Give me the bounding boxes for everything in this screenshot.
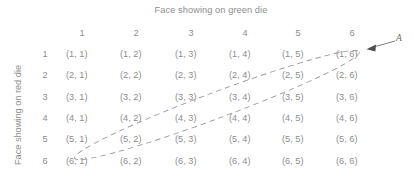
cell-3-2: (3, 2) bbox=[120, 92, 164, 102]
cell-2-4: (2, 4) bbox=[229, 70, 273, 80]
row-header-4: 4 bbox=[38, 113, 52, 123]
cell-2-3: (2, 3) bbox=[175, 70, 219, 80]
cell-5-6: (5, 6) bbox=[336, 134, 380, 144]
column-axis-title: Face showing on green die bbox=[0, 5, 414, 15]
cell-4-4: (4, 4) bbox=[229, 113, 273, 123]
cell-5-2: (5, 2) bbox=[120, 134, 164, 144]
cell-2-2: (2, 2) bbox=[120, 70, 164, 80]
cell-5-3: (5, 3) bbox=[175, 134, 219, 144]
cell-4-2: (4, 2) bbox=[120, 113, 164, 123]
cell-3-1: (3, 1) bbox=[66, 92, 110, 102]
column-header-3: 3 bbox=[171, 28, 211, 38]
column-header-4: 4 bbox=[225, 28, 265, 38]
cell-3-6: (3, 6) bbox=[336, 92, 380, 102]
cell-6-4: (6, 4) bbox=[229, 156, 273, 166]
cell-6-5: (6, 5) bbox=[282, 156, 326, 166]
column-axis-title-text: Face showing on green die bbox=[155, 5, 268, 15]
cell-3-5: (3, 5) bbox=[282, 92, 326, 102]
cell-5-5: (5, 5) bbox=[282, 134, 326, 144]
row-header-2: 2 bbox=[38, 70, 52, 80]
cell-2-6: (2, 6) bbox=[336, 70, 380, 80]
cell-1-6: (1, 6) bbox=[336, 49, 380, 59]
cell-1-4: (1, 4) bbox=[229, 49, 273, 59]
cell-4-6: (4, 6) bbox=[336, 113, 380, 123]
event-a-dashed-ellipse bbox=[70, 40, 364, 171]
cell-2-1: (2, 1) bbox=[66, 70, 110, 80]
row-axis-title: Face showing on red die bbox=[13, 45, 23, 185]
row-header-1: 1 bbox=[38, 49, 52, 59]
dice-sample-space-figure: Face showing on green die Face showing o… bbox=[0, 0, 414, 185]
cell-1-1: (1, 1) bbox=[66, 49, 110, 59]
row-header-3: 3 bbox=[38, 92, 52, 102]
cell-6-3: (6, 3) bbox=[175, 156, 219, 166]
cell-6-6: (6, 6) bbox=[336, 156, 380, 166]
cell-1-2: (1, 2) bbox=[120, 49, 164, 59]
cell-4-3: (4, 3) bbox=[175, 113, 219, 123]
cell-5-1: (5, 1) bbox=[66, 134, 110, 144]
cell-2-5: (2, 5) bbox=[282, 70, 326, 80]
cell-4-1: (4, 1) bbox=[66, 113, 110, 123]
row-header-6: 6 bbox=[38, 156, 52, 166]
column-header-2: 2 bbox=[116, 28, 156, 38]
cell-1-3: (1, 3) bbox=[175, 49, 219, 59]
cell-3-3: (3, 3) bbox=[175, 92, 219, 102]
column-header-5: 5 bbox=[278, 28, 318, 38]
cell-3-4: (3, 4) bbox=[229, 92, 273, 102]
cell-6-1: (6, 1) bbox=[66, 156, 110, 166]
column-header-1: 1 bbox=[62, 28, 102, 38]
cell-4-5: (4, 5) bbox=[282, 113, 326, 123]
row-header-5: 5 bbox=[38, 134, 52, 144]
cell-5-4: (5, 4) bbox=[229, 134, 273, 144]
event-a-label: A bbox=[396, 33, 402, 43]
cell-1-5: (1, 5) bbox=[282, 49, 326, 59]
event-a-arrow-line bbox=[370, 41, 395, 48]
column-header-6: 6 bbox=[332, 28, 372, 38]
cell-6-2: (6, 2) bbox=[120, 156, 164, 166]
